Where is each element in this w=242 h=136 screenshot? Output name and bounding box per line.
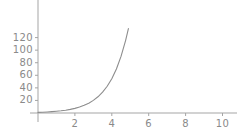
x-tick-label: 8: [176, 119, 196, 129]
exponential-curve: [38, 29, 128, 113]
exponential-chart: 20406080100120 246810: [0, 0, 242, 136]
y-tick-label: 20: [5, 95, 33, 105]
x-tick-label: 6: [139, 119, 159, 129]
plot-area: [0, 0, 242, 136]
y-tick-label: 80: [5, 58, 33, 68]
y-tick-label: 60: [5, 70, 33, 80]
x-tick-label: 2: [65, 119, 85, 129]
x-tick-label: 4: [102, 119, 122, 129]
y-tick-label: 40: [5, 83, 33, 93]
y-tick-label: 100: [5, 45, 33, 55]
y-tick-label: 120: [5, 33, 33, 43]
x-tick-label: 10: [213, 119, 233, 129]
